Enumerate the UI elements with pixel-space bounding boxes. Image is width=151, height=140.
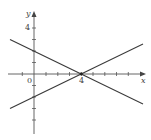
y-tick-label-4: 4	[25, 24, 30, 32]
y-axis	[32, 11, 37, 134]
intersection-point	[80, 73, 83, 76]
origin-label: 0	[27, 77, 32, 85]
x-axis-label: x	[141, 77, 146, 85]
x-tick-label-4: 4	[79, 77, 84, 85]
y-axis-label: y	[26, 10, 31, 18]
chart-plot	[0, 0, 151, 140]
y-axis-arrow-icon	[32, 11, 37, 17]
decreasing-line	[10, 40, 143, 105]
